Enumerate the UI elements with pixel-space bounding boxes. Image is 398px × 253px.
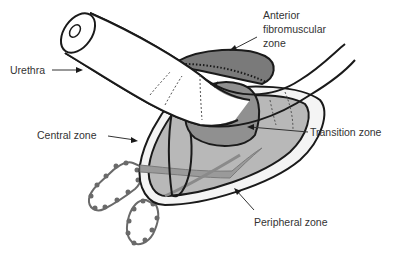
urethra-arrowhead — [76, 67, 83, 73]
label-anterior-line1: Anterior — [263, 9, 300, 21]
anterior-arrowhead — [229, 45, 237, 51]
label-transition-zone: Transition zone — [310, 126, 382, 138]
label-peripheral-zone: Peripheral zone — [254, 216, 328, 228]
central-leader — [108, 136, 135, 140]
label-anterior-line2: fibromuscular — [263, 23, 327, 35]
prostate-diagram: Urethra Anterior fibromuscular zone Cent… — [0, 0, 398, 253]
label-urethra: Urethra — [10, 64, 45, 76]
central-arrowhead — [131, 137, 138, 143]
seminal-vesicle-lower — [127, 200, 158, 244]
label-central-zone: Central zone — [37, 129, 97, 141]
label-anterior-line3: zone — [263, 37, 286, 49]
